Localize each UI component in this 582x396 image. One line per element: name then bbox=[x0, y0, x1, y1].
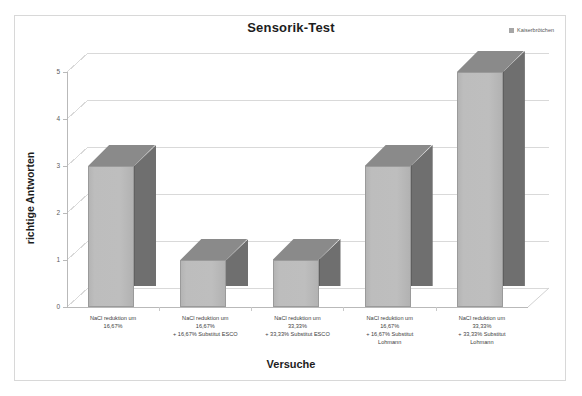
bar-front-face bbox=[273, 260, 319, 307]
bar-column[interactable] bbox=[88, 145, 155, 307]
bar-front-face bbox=[180, 260, 226, 307]
bar-column[interactable] bbox=[273, 239, 340, 307]
bar-side-face bbox=[134, 145, 156, 286]
x-axis-category-line: 33,33% bbox=[426, 322, 538, 330]
chart-container: Sensorik-Test Kaiserbrötchen richtige An… bbox=[0, 0, 582, 396]
x-axis-category-line: + 33,33% Substitut bbox=[426, 330, 538, 338]
bar-column[interactable] bbox=[365, 145, 432, 307]
x-axis-title: Versuche bbox=[0, 358, 582, 370]
bar-front-face bbox=[88, 166, 134, 307]
bar-side-face bbox=[503, 51, 525, 286]
x-axis-category-label: NaCl reduktion um33,33%+ 33,33% Substitu… bbox=[426, 314, 538, 346]
bar-side-face bbox=[411, 145, 433, 286]
bar-front-face bbox=[365, 166, 411, 307]
x-axis-category-line: NaCl reduktion um bbox=[426, 314, 538, 322]
bar-column[interactable] bbox=[457, 51, 524, 307]
bar-front-face bbox=[457, 72, 503, 307]
x-axis-category-line: Lohmann bbox=[426, 338, 538, 346]
bar-column[interactable] bbox=[180, 239, 247, 307]
